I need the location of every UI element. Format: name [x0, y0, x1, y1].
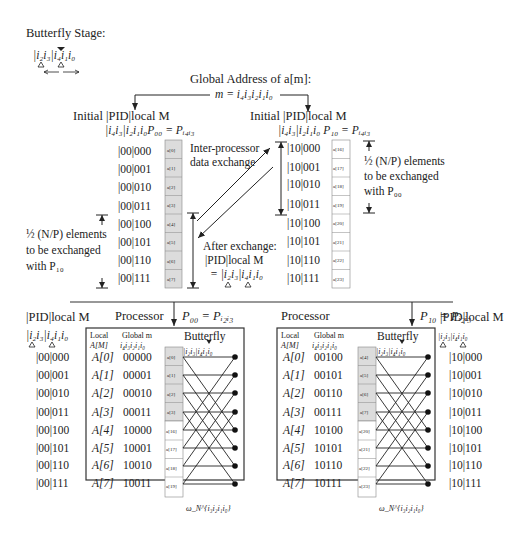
local-label: A[0]	[91, 351, 114, 363]
triangle-marker-icon	[58, 62, 64, 67]
stage-pointer-icon	[207, 340, 212, 344]
address-label: |00|100	[36, 424, 70, 437]
col-global-header-2: i₄i₃i₂i₁i₀	[120, 341, 145, 350]
memory-cell: a[3]	[167, 203, 175, 208]
address-label: |00|011	[118, 200, 151, 213]
memory-cell: a[0]	[167, 148, 175, 153]
memory-cell: a[0]	[167, 355, 175, 360]
bottom-left-locals: A[0] A[1] A[2] A[3] A[4] A[5] A[6] A[7]	[91, 351, 114, 489]
memory-cell: a[21]	[359, 447, 370, 452]
bottom-left-butterfly-network	[183, 357, 235, 484]
top-right-subheading: |i₄i₃|i₂i₁i₀ P₁₀ = Pᵢ₄ᵢ₃	[278, 124, 370, 137]
global-label: 00000	[123, 351, 152, 363]
global-label: 10001	[123, 442, 152, 454]
local-label: A[7]	[282, 477, 305, 489]
fft-diagram: Butterfly Stage: |i₂i₃|i₄i₁i₀ Global Add…	[0, 0, 523, 538]
local-label: A[5]	[91, 442, 114, 454]
global-label: 00010	[123, 387, 152, 399]
memory-cell: a[23]	[333, 277, 344, 282]
butterfly-stage-legend: Butterfly Stage: |i₂i₃|i₄i₁i₀	[26, 26, 106, 74]
node-dot-icon	[232, 463, 238, 469]
global-label: 10111	[314, 477, 342, 489]
global-label: 00011	[123, 406, 152, 418]
local-label: A[3]	[282, 406, 305, 418]
top-left-memory-column: a[0] a[1] a[2] a[3] a[4] a[5] a[6] a[7]	[165, 140, 182, 288]
top-right-memory-column: a[16] a[17] a[18] a[19] a[20] a[21] a[22…	[332, 140, 350, 288]
node-dot-icon	[425, 427, 431, 433]
memory-cell: a[1]	[167, 166, 175, 171]
top-left-processor: Initial |PID|local M |i₄i₃|i₂i₁i₀P₀₀ = P…	[26, 109, 199, 288]
top-left-heading: Initial |PID|local M	[73, 109, 170, 123]
local-label: A[7]	[91, 477, 114, 489]
address-label: |10|111	[449, 477, 482, 490]
memory-cell: a[2]	[167, 185, 175, 190]
top-right-processor: Initial |PID|local M |i₄i₃|i₂i₁i₀ P₁₀ = …	[250, 109, 445, 288]
triangle-marker-icon	[225, 282, 231, 287]
address-label: |10|110	[449, 459, 482, 472]
local-label: A[2]	[91, 387, 114, 399]
address-label: |00|111	[118, 272, 151, 285]
triangle-marker-icon	[460, 342, 466, 347]
address-label: |10|000	[287, 142, 321, 155]
triangle-marker-icon	[49, 342, 55, 347]
address-label: |00|101	[118, 236, 152, 249]
memory-cell: a[20]	[359, 429, 370, 434]
after-exchange-line1: After exchange:	[203, 240, 277, 253]
global-address: Global Address of a[m]: m = i₄i₃i₂i₁i₀	[135, 72, 311, 112]
memory-cell: a[5]	[360, 373, 368, 378]
col-local-header-2: A[M]	[280, 341, 299, 350]
memory-cell: a[18]	[333, 184, 344, 189]
address-label: |10|010	[287, 178, 321, 191]
global-label: 10110	[314, 459, 343, 471]
memory-cell: a[21]	[333, 240, 344, 245]
local-label: A[4]	[282, 424, 305, 436]
col-global-header: Global m	[314, 331, 345, 340]
butterfly-stage-title: Butterfly Stage:	[26, 26, 106, 40]
col-global-header-2: i₄i₃i₂i₁i₀	[312, 341, 337, 350]
bottom-left-globals: 00000 00001 00010 00011 10000 10001 1001…	[123, 351, 152, 489]
col-butterfly-header: Butterfly	[377, 330, 419, 343]
bottom-left-twiddle: ω_N^{i₃i₂i₁i₀}	[186, 504, 232, 513]
col-butterfly-header: Butterfly	[184, 330, 226, 343]
bottom-left-processor-eq: P₀₀ = Pᵢ₂ᵢ₃	[181, 309, 233, 323]
top-right-note-line1: ½ (N/P) elements	[364, 155, 445, 168]
address-label: |10|110	[287, 254, 320, 267]
memory-cell: a[7]	[360, 410, 368, 415]
global-label: 10000	[123, 424, 152, 436]
local-label: A[5]	[282, 442, 305, 454]
exchange-label-line2: data exchange	[190, 156, 255, 169]
memory-cell: a[22]	[359, 466, 370, 471]
bottom-left-memory-column: a[0] a[1] a[2] a[3] a[16] a[17] a[18] a[…	[165, 347, 183, 497]
global-label: 00101	[314, 369, 343, 381]
address-label: |00|001	[118, 163, 152, 176]
top-right-note-line3: with P₀₀	[364, 185, 402, 197]
node-dot-icon	[425, 481, 431, 487]
local-label: A[6]	[282, 459, 305, 471]
address-label: |10|011	[287, 198, 320, 211]
bottom-right-globals: 00100 00101 00110 00111 10100 10101 1011…	[314, 351, 343, 489]
memory-cell: a[6]	[167, 259, 175, 264]
bottom-right-processor: Processor P₁₀ = Pᵢ₂ᵢ₃ Local A[M] Global …	[277, 309, 504, 513]
global-address-expr: m = i₄i₃i₂i₁i₀	[215, 88, 273, 100]
node-dot-icon	[425, 463, 431, 469]
node-dot-icon	[425, 372, 431, 378]
memory-cell: a[18]	[166, 466, 177, 471]
address-label: |10|101	[287, 235, 321, 248]
global-label: 10011	[123, 477, 152, 489]
address-label: |10|011	[449, 406, 482, 419]
memory-cell: a[17]	[166, 447, 177, 452]
node-dot-icon	[232, 445, 238, 451]
local-label: A[6]	[91, 459, 114, 471]
bottom-right-addresses: |10|000 |10|001 |10|010 |10|011 |10|100 …	[449, 351, 483, 490]
memory-cell: a[22]	[333, 258, 344, 263]
node-dot-icon	[425, 409, 431, 415]
memory-cell: a[4]	[167, 222, 175, 227]
address-label: |00|010	[36, 387, 70, 400]
bottom-left-output-nodes	[232, 354, 238, 487]
node-dot-icon	[232, 354, 238, 360]
local-label: A[1]	[282, 369, 305, 381]
bottom-left-side-heading: |PID|local M	[26, 310, 90, 324]
col-local-header: Local	[90, 331, 109, 340]
after-exchange-line3: = |i₂i₃|i₄i₁i₀	[210, 268, 263, 281]
address-label: |00|011	[36, 406, 69, 419]
